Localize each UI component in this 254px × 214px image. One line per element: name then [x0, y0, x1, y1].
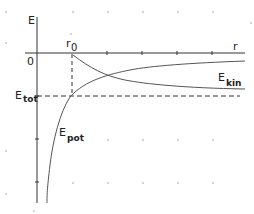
origin-label: 0: [27, 55, 34, 68]
x-axis-label: r: [233, 40, 238, 53]
epot-label: E: [59, 126, 66, 139]
etot-subscript: tot: [23, 94, 38, 104]
epot-subscript: pot: [67, 133, 85, 143]
epot-curve: [47, 97, 70, 203]
y-axis-label: E: [28, 14, 35, 27]
energy-diagram: E r 0 r 0 E tot E kin E pot: [0, 0, 254, 214]
ekin-subscript: kin: [226, 78, 241, 88]
r0-subscript: 0: [71, 42, 77, 53]
ekin-label: E: [218, 71, 225, 84]
grid-dots: [5, 11, 252, 212]
etot-label: E: [15, 89, 22, 102]
